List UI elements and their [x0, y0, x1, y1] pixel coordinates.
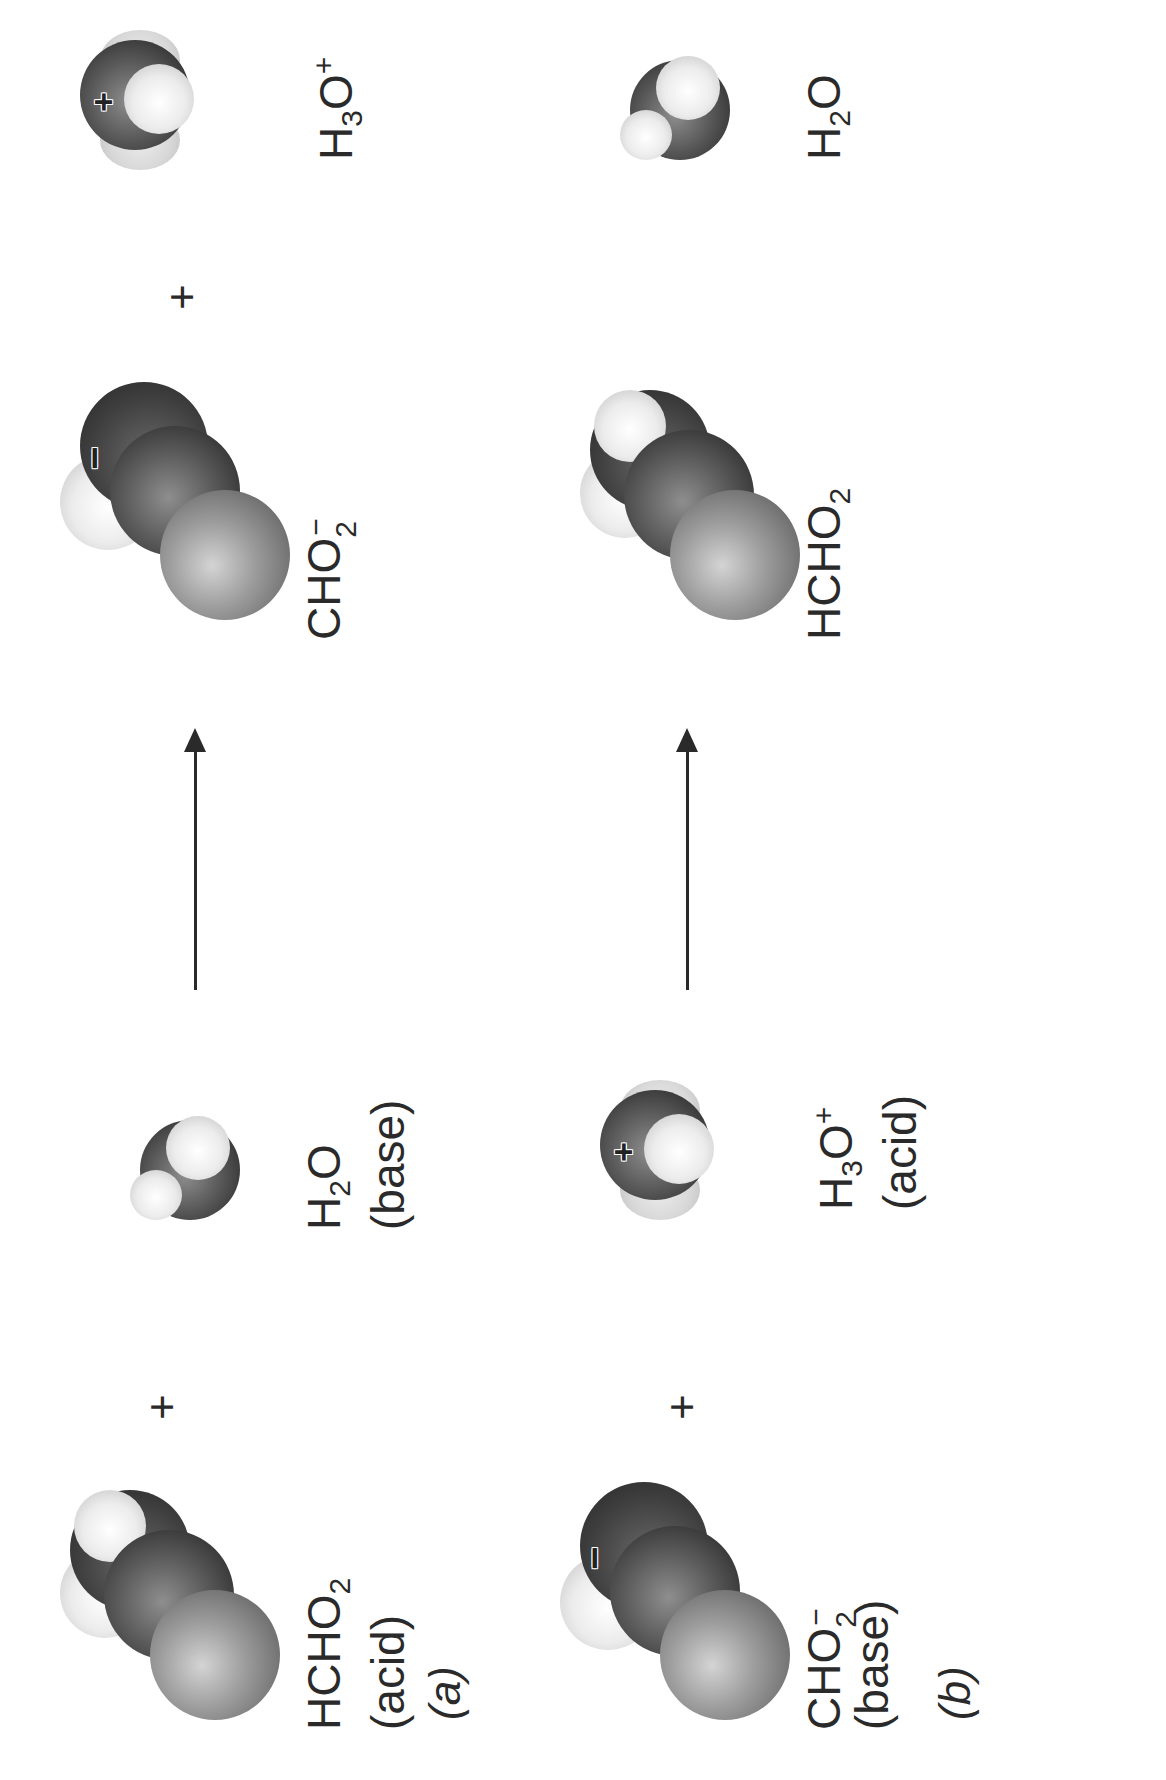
oxygen-atom	[150, 1590, 280, 1720]
formula-label-cho2-minus: CHO−2	[300, 514, 348, 640]
positive-charge-marker: +	[86, 92, 120, 112]
plus-sign: +	[140, 1394, 184, 1420]
oxygen-atom	[670, 490, 800, 620]
reaction-row-b: − CHO−2 (base) + + H3O+ (acid)	[560, 0, 1120, 1780]
hydrogen-atom	[124, 64, 194, 134]
formula-label-cho2-minus-base: CHO−2 (base)	[800, 1600, 896, 1730]
molecule-formic-acid	[60, 1490, 280, 1720]
plus-sign: +	[160, 284, 204, 310]
molecule-hydronium-ion: +	[80, 30, 210, 170]
formula-label-hcho2: HCHO2	[800, 488, 864, 640]
negative-charge-marker: −	[574, 1547, 614, 1570]
molecule-formate-ion: −	[560, 1490, 790, 1720]
reaction-row-a: HCHO2 (acid) + H2O (base) − CHO−2 +	[0, 0, 560, 1780]
hydrogen-atom	[656, 56, 720, 120]
positive-charge-marker: +	[606, 1142, 640, 1162]
role-label: (acid)	[364, 1578, 412, 1730]
oxygen-atom	[160, 490, 290, 620]
molecule-formate-ion: −	[60, 390, 290, 620]
molecule-water	[130, 1110, 240, 1220]
hydrogen-atom	[166, 1116, 230, 1180]
negative-charge-marker: −	[74, 447, 114, 470]
hydrogen-atom	[620, 110, 672, 160]
plus-sign: +	[660, 1394, 704, 1420]
hydrogen-atom	[130, 1170, 182, 1220]
molecule-hydronium-ion: +	[600, 1080, 730, 1220]
formula-label-hcho2-acid: HCHO2 (acid)	[300, 1578, 412, 1730]
formula-label-h3o-plus: H3O+	[300, 57, 376, 160]
molecule-water	[620, 50, 730, 160]
role-label: (acid)	[876, 1095, 924, 1210]
part-label-b: (b)	[930, 1666, 980, 1720]
formula-label-h2o-base: H2O (base)	[300, 1100, 412, 1230]
reaction-arrow	[194, 750, 197, 990]
role-label: (base)	[364, 1100, 412, 1230]
molecule-formic-acid	[580, 390, 800, 620]
formula-label-h2o: H2O	[800, 74, 864, 160]
formula-label-h3o-plus-acid: H3O+ (acid)	[800, 1095, 924, 1210]
part-label-a: (a)	[420, 1666, 470, 1720]
reaction-arrow	[686, 750, 689, 990]
diagram-canvas: HCHO2 (acid) + H2O (base) − CHO−2 +	[0, 0, 1166, 1780]
hydrogen-atom	[644, 1114, 714, 1184]
oxygen-atom	[660, 1590, 790, 1720]
